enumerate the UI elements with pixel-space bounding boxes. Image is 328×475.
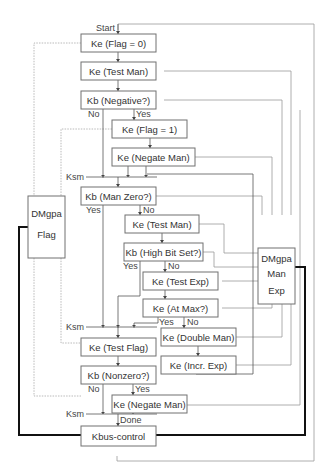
svg-text:Ke (Test Man): Ke (Test Man) [89, 66, 148, 77]
svg-text:Ke (Negate Man): Ke (Negate Man) [113, 399, 185, 410]
node-flag0: Ke (Flag = 0) [81, 34, 156, 52]
node-nonzero: Kb (Nonzero?) [81, 366, 156, 384]
svg-text:Kb (Man Zero?): Kb (Man Zero?) [85, 191, 152, 202]
label-start: Start [96, 23, 116, 33]
node-testflag: Ke (Test Flag) [81, 338, 156, 356]
node-flag1: Ke (Flag = 1) [112, 120, 187, 138]
node-kbus-control: Kbus-control [81, 426, 156, 446]
node-testman1: Ke (Test Man) [81, 62, 156, 80]
svg-text:Ke (At Max?): Ke (At Max?) [153, 303, 208, 314]
svg-text:Man: Man [267, 268, 285, 279]
node-negative: Kb (Negative?) [81, 91, 156, 109]
signal-manzero [150, 196, 262, 215]
node-dmgpa-man-exp: DMgpa Man Exp [258, 248, 295, 304]
node-testexp: Ke (Test Exp) [143, 272, 218, 290]
node-doubleman: Ke (Double Man) [161, 328, 236, 346]
flow-highbit-yes [118, 261, 140, 328]
label-highbit-no: No [168, 261, 180, 271]
svg-text:DMgpa: DMgpa [31, 208, 62, 219]
label-atmax-yes: Yes [159, 317, 174, 327]
label-negative-yes: Yes [136, 109, 151, 119]
svg-text:DMgpa: DMgpa [261, 253, 292, 264]
svg-text:Kb (High Bit Set?): Kb (High Bit Set?) [125, 247, 201, 258]
svg-text:Flag: Flag [37, 229, 55, 240]
node-atmax: Ke (At Max?) [143, 299, 218, 317]
signal-flag1-to-dmgpa-flag [61, 129, 112, 343]
node-testman2: Ke (Test Man) [125, 215, 199, 233]
label-nonzero-no: No [88, 384, 100, 394]
svg-text:Ke (Test Exp): Ke (Test Exp) [152, 276, 209, 287]
flowchart-diagram: Ke (Flag = 0) Ke (Test Man) Kb (Negative… [0, 0, 328, 475]
node-manzero: Kb (Man Zero?) [81, 187, 156, 205]
svg-text:Ke (Negate Man): Ke (Negate Man) [117, 152, 189, 163]
svg-text:Kb (Nonzero?): Kb (Nonzero?) [88, 370, 150, 381]
label-ksm-3: Ksm [66, 409, 84, 419]
label-negative-no: No [88, 109, 100, 119]
svg-text:Ke (Incr. Exp): Ke (Incr. Exp) [170, 360, 228, 371]
svg-text:Exp: Exp [268, 285, 284, 296]
node-increxp: Ke (Incr. Exp) [161, 356, 236, 374]
label-manzero-no: No [143, 205, 155, 215]
label-atmax-no: No [187, 317, 199, 327]
node-negateman2: Ke (Negate Man) [112, 395, 187, 413]
flow-negateman1-down [128, 166, 146, 177]
label-ksm-2: Ksm [66, 322, 84, 332]
svg-text:Ke (Test Man): Ke (Test Man) [132, 219, 191, 230]
svg-text:Kbus-control: Kbus-control [92, 431, 145, 442]
signal-negateman1 [195, 157, 272, 215]
flow-atmax-yes [134, 317, 158, 328]
svg-text:Ke (Double Man): Ke (Double Man) [163, 332, 235, 343]
label-done: Done [120, 415, 142, 425]
label-nonzero-yes: Yes [135, 384, 150, 394]
label-manzero-yes: Yes [86, 205, 101, 215]
node-negateman1: Ke (Negate Man) [112, 148, 195, 166]
svg-text:Ke (Test Flag): Ke (Test Flag) [89, 342, 148, 353]
svg-text:Kb (Negative?): Kb (Negative?) [87, 95, 150, 106]
svg-text:Ke (Flag = 1): Ke (Flag = 1) [122, 124, 177, 135]
node-highbit: Kb (High Bit Set?) [124, 243, 203, 261]
label-highbit-yes: Yes [123, 261, 138, 271]
signal-highbit [198, 252, 258, 267]
label-ksm-1: Ksm [66, 172, 84, 182]
svg-text:Ke (Flag = 0): Ke (Flag = 0) [91, 38, 146, 49]
node-dmgpa-flag: DMgpa Flag [28, 196, 65, 258]
